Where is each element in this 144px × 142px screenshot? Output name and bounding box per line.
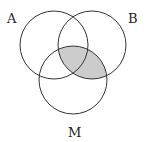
- venn-diagram: [0, 0, 144, 142]
- label-b: B: [128, 12, 138, 25]
- circle-a: [20, 11, 88, 79]
- label-m: M: [68, 126, 81, 139]
- label-a: A: [7, 12, 16, 25]
